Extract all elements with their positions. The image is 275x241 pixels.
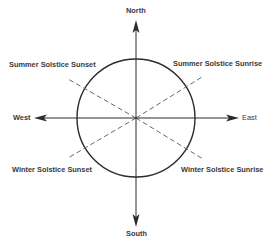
diagram-canvas (0, 0, 275, 241)
east-label: East (242, 114, 257, 121)
winter-solstice-sunset-label: Winter Solstice Sunset (12, 166, 92, 173)
summer-solstice-sunset-label: Summer Solstice Sunset (9, 61, 96, 68)
solstice-compass-diagram: North South West East Summer Solstice Su… (0, 0, 275, 241)
winter-sunrise-line (136, 118, 203, 159)
summer-sunrise-line (136, 77, 202, 118)
south-label: South (126, 230, 147, 237)
winter-solstice-sunrise-label: Winter Solstice Sunrise (181, 166, 263, 173)
west-label: West (13, 114, 31, 121)
summer-solstice-sunrise-label: Summer Solstice Sunrise (173, 60, 262, 67)
winter-sunset-line (68, 118, 136, 158)
north-label: North (126, 7, 146, 14)
summer-sunset-line (68, 79, 136, 118)
